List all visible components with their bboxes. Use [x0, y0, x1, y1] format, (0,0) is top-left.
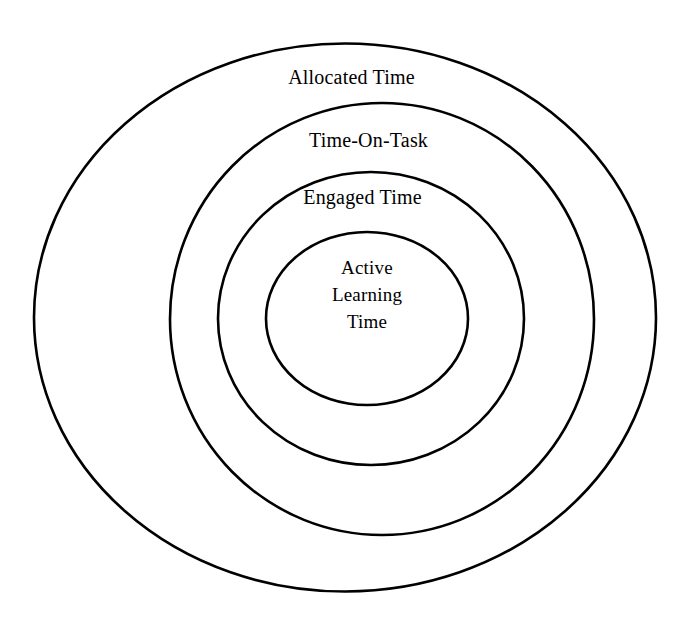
- ring-label-engaged-time: Engaged Time: [26, 186, 699, 210]
- ring-label-time-on-task: Time-On-Task: [38, 129, 699, 153]
- ring-label-line-learning: Learning: [266, 282, 468, 309]
- ring-label-line-time: Time: [266, 309, 468, 336]
- ring-label-allocated-time: Allocated Time: [4, 66, 699, 90]
- ring-label-line-active: Active: [266, 255, 468, 282]
- diagram-canvas: Allocated Time Time-On-Task Engaged Time…: [0, 0, 699, 623]
- ring-label-active-learning-time: Active Learning Time: [266, 255, 468, 336]
